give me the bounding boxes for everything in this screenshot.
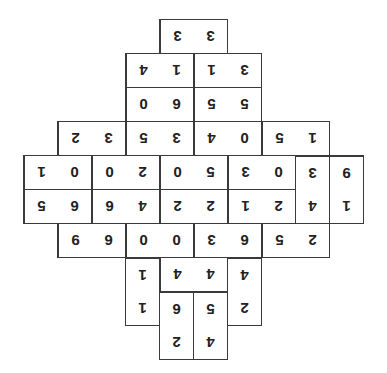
domino-tile[interactable]: 53 (125, 121, 194, 156)
domino-half-value: 1 (160, 54, 193, 87)
domino-half-value: 2 (126, 156, 159, 189)
domino-tile[interactable]: 23 (57, 121, 126, 156)
domino-half-value: 5 (194, 156, 227, 189)
domino-half-value: 2 (194, 190, 227, 223)
domino-half-value: 1 (24, 156, 58, 189)
domino-tile[interactable]: 91 (329, 155, 364, 224)
domino-tile[interactable]: 33 (159, 19, 228, 54)
domino-tile[interactable]: 00 (125, 223, 194, 258)
domino-tile[interactable]: 10 (23, 155, 92, 190)
domino-half-value: 1 (296, 122, 329, 155)
domino-half-value: 6 (92, 190, 126, 223)
domino-tile[interactable]: 52 (261, 223, 330, 258)
domino-tile[interactable]: 05 (159, 155, 228, 190)
domino-half-value: 5 (126, 122, 160, 155)
domino-half-value: 6 (160, 88, 193, 121)
domino-tile[interactable]: 40 (193, 121, 262, 156)
domino-half-value: 6 (160, 292, 193, 326)
domino-half-value: 5 (262, 224, 296, 257)
domino-half-value: 4 (160, 258, 194, 291)
domino-half-value: 3 (194, 224, 228, 257)
domino-half-value: 2 (228, 292, 261, 325)
domino-half-value: 0 (262, 156, 295, 189)
domino-half-value: 2 (296, 224, 329, 257)
domino-tile[interactable]: 34 (295, 155, 330, 224)
domino-tile[interactable]: 22 (159, 189, 228, 224)
domino-half-value: 3 (160, 122, 193, 155)
domino-half-value: 0 (58, 156, 91, 189)
domino-half-value: 5 (262, 122, 296, 155)
domino-half-value: 9 (330, 156, 363, 190)
domino-tile[interactable]: 55 (193, 87, 262, 122)
domino-half-value: 1 (228, 190, 262, 223)
domino-tile[interactable]: 41 (125, 53, 194, 88)
domino-tile[interactable]: 64 (91, 189, 160, 224)
domino-tile[interactable]: 11 (125, 257, 160, 326)
domino-tile[interactable]: 13 (193, 53, 262, 88)
domino-half-value: 4 (194, 326, 227, 359)
domino-half-value: 1 (330, 190, 363, 223)
domino-half-value: 3 (160, 20, 194, 53)
domino-half-value: 1 (126, 258, 159, 292)
domino-half-value: 3 (92, 122, 125, 155)
domino-tile[interactable]: 51 (261, 121, 330, 156)
domino-tile[interactable]: 44 (159, 257, 228, 292)
domino-half-value: 4 (126, 54, 160, 87)
domino-half-value: 1 (194, 54, 228, 87)
domino-half-value: 5 (24, 190, 58, 223)
domino-half-value: 4 (194, 258, 227, 291)
domino-half-value: 3 (194, 20, 227, 53)
domino-half-value: 4 (228, 258, 261, 292)
domino-half-value: 6 (58, 190, 91, 223)
domino-half-value: 3 (296, 156, 329, 190)
domino-half-value: 0 (126, 88, 160, 121)
domino-half-value: 6 (92, 224, 125, 257)
domino-half-value: 2 (262, 190, 295, 223)
domino-half-value: 9 (58, 224, 92, 257)
domino-half-value: 5 (228, 88, 261, 121)
domino-tile[interactable]: 02 (91, 155, 160, 190)
domino-half-value: 3 (228, 54, 261, 87)
domino-tile[interactable]: 56 (23, 189, 92, 224)
domino-board: 3341130655235340511002053034915664221296… (0, 0, 387, 373)
domino-half-value: 5 (194, 292, 227, 326)
domino-half-value: 0 (92, 156, 126, 189)
domino-tile[interactable]: 36 (193, 223, 262, 258)
domino-half-value: 6 (228, 224, 261, 257)
domino-tile[interactable]: 30 (227, 155, 296, 190)
domino-half-value: 0 (228, 122, 261, 155)
domino-tile[interactable]: 96 (57, 223, 126, 258)
domino-half-value: 2 (58, 122, 92, 155)
domino-tile[interactable]: 12 (227, 189, 296, 224)
domino-half-value: 0 (126, 224, 160, 257)
domino-half-value: 0 (160, 224, 193, 257)
domino-half-value: 2 (160, 190, 194, 223)
domino-half-value: 5 (194, 88, 228, 121)
domino-half-value: 0 (160, 156, 194, 189)
domino-tile[interactable]: 42 (227, 257, 262, 326)
domino-half-value: 4 (194, 122, 228, 155)
domino-half-value: 1 (126, 292, 159, 325)
domino-half-value: 2 (160, 326, 193, 359)
domino-tile[interactable]: 54 (193, 291, 228, 360)
domino-half-value: 4 (126, 190, 159, 223)
domino-half-value: 3 (228, 156, 262, 189)
domino-half-value: 4 (296, 190, 329, 223)
domino-tile[interactable]: 06 (125, 87, 194, 122)
domino-tile[interactable]: 62 (159, 291, 194, 360)
